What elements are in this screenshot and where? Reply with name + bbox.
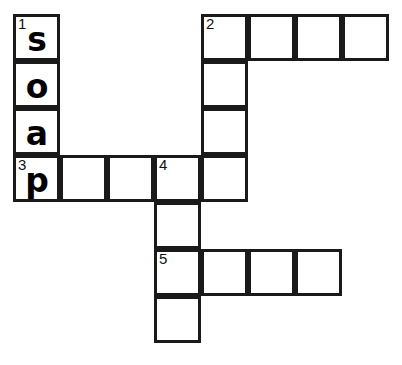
- cell-letter: a: [16, 111, 57, 152]
- cell-r3c0[interactable]: 3p: [13, 155, 60, 202]
- cell-r6c3[interactable]: [154, 296, 201, 343]
- cell-r0c7[interactable]: [342, 14, 389, 61]
- crossword-grid[interactable]: 1soa3p452: [0, 0, 402, 365]
- cell-r3c3[interactable]: 4: [154, 155, 201, 202]
- cell-r1c4[interactable]: [201, 61, 248, 108]
- cell-letter: o: [16, 64, 57, 105]
- cell-letter: s: [16, 17, 57, 58]
- cell-letter: p: [16, 158, 57, 199]
- cell-r0c5[interactable]: [248, 14, 295, 61]
- cell-r0c4[interactable]: 2: [201, 14, 248, 61]
- cell-r0c6[interactable]: [295, 14, 342, 61]
- cell-r5c6[interactable]: [295, 249, 342, 296]
- cell-r0c0[interactable]: 1s: [13, 14, 60, 61]
- cell-r5c3[interactable]: 5: [154, 249, 201, 296]
- cell-number: 5: [159, 251, 167, 266]
- cell-r3c4[interactable]: [201, 155, 248, 202]
- cell-r1c0[interactable]: o: [13, 61, 60, 108]
- cell-r3c2[interactable]: [107, 155, 154, 202]
- cell-r5c5[interactable]: [248, 249, 295, 296]
- cell-number: 2: [206, 16, 214, 31]
- cell-number: 4: [159, 157, 167, 172]
- cell-r2c4[interactable]: [201, 108, 248, 155]
- cell-r3c1[interactable]: [60, 155, 107, 202]
- cell-r4c3[interactable]: [154, 202, 201, 249]
- cell-r5c4[interactable]: [201, 249, 248, 296]
- cell-r2c0[interactable]: a: [13, 108, 60, 155]
